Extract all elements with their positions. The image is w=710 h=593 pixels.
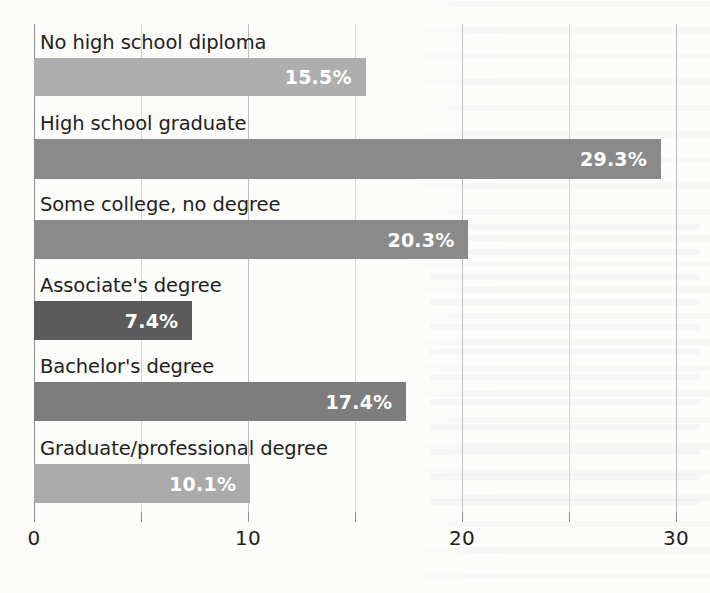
gridline-20 — [462, 24, 463, 512]
value-axis-line — [34, 24, 35, 512]
gridline-15 — [355, 24, 356, 512]
bar-value-label-4: 17.4% — [325, 391, 406, 413]
category-label-1: High school graduate — [40, 112, 246, 135]
bar-value-label-5: 10.1% — [169, 473, 250, 495]
axis-tick-15 — [355, 512, 356, 522]
axis-tick-10 — [248, 512, 249, 522]
axis-tick-20 — [462, 512, 463, 522]
gridline-25 — [569, 24, 570, 512]
axis-tick-30 — [676, 512, 677, 522]
bar-5[interactable]: 10.1% — [34, 464, 250, 503]
x-tick-label-0: 0 — [28, 526, 41, 550]
category-label-5: Graduate/professional degree — [40, 437, 328, 460]
bar-value-label-2: 20.3% — [387, 229, 468, 251]
bar-value-label-0: 15.5% — [285, 66, 366, 88]
bar-3[interactable]: 7.4% — [34, 301, 192, 340]
bar-1[interactable]: 29.3% — [34, 139, 661, 179]
x-tick-label-20: 20 — [449, 526, 475, 550]
bar-2[interactable]: 20.3% — [34, 220, 468, 259]
bar-4[interactable]: 17.4% — [34, 382, 406, 421]
x-tick-label-30: 30 — [663, 526, 689, 550]
category-label-2: Some college, no degree — [40, 193, 280, 216]
category-label-0: No high school diploma — [40, 31, 266, 54]
axis-tick-0 — [34, 512, 35, 522]
axis-tick-25 — [569, 512, 570, 522]
category-label-3: Associate's degree — [40, 274, 222, 297]
category-label-4: Bachelor's degree — [40, 355, 214, 378]
x-tick-label-10: 10 — [235, 526, 261, 550]
bar-0[interactable]: 15.5% — [34, 58, 366, 96]
bar-value-label-3: 7.4% — [125, 310, 193, 332]
axis-tick-5 — [141, 512, 142, 522]
chart-page: 0102030No high school diploma15.5%High s… — [0, 0, 710, 593]
bar-value-label-1: 29.3% — [580, 148, 661, 170]
gridline-30 — [676, 24, 677, 512]
plot-area: 0102030No high school diploma15.5%High s… — [34, 24, 676, 512]
